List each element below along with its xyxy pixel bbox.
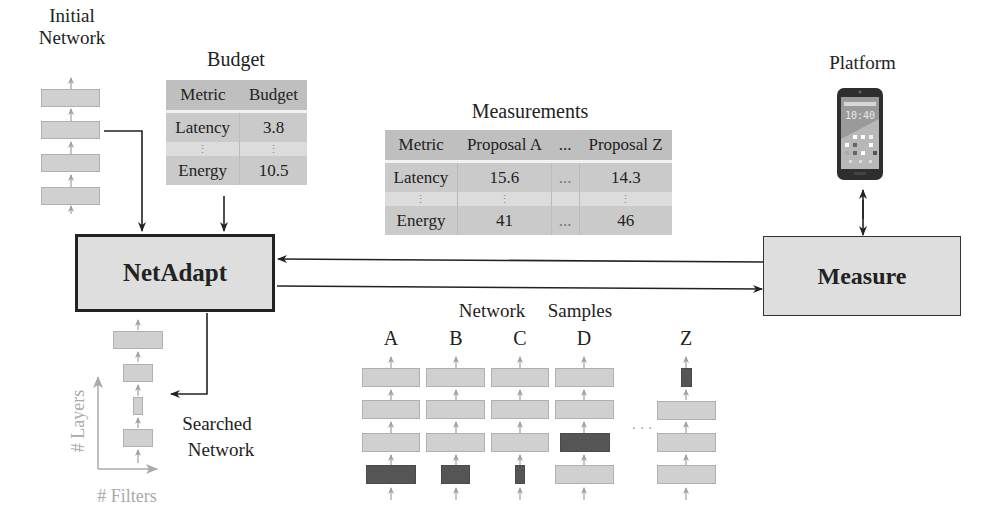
- network-samples-title-word1: Network: [452, 300, 532, 322]
- measurements-header: Metric: [385, 130, 457, 162]
- measurements-cell: ⋮: [579, 192, 672, 206]
- budget-cell: 10.5: [240, 156, 307, 185]
- pruned-layer: [560, 433, 610, 452]
- searched-layer: [113, 331, 163, 349]
- network-samples-title-word2: Samples: [540, 300, 620, 322]
- sample-layer: [555, 465, 614, 484]
- measurements-cell: Latency: [385, 162, 457, 193]
- budget-cell: 3.8: [240, 112, 307, 143]
- budget-header-metric: Metric: [166, 80, 240, 112]
- initial-layer: [41, 187, 100, 205]
- measurements-cell: 46: [579, 206, 672, 235]
- measurements-cell: ...: [551, 162, 579, 193]
- initial-layer: [41, 89, 100, 107]
- searched-layer: [133, 397, 143, 415]
- x-axis-label-filters: # Filters: [82, 485, 172, 507]
- sample-layer: [491, 433, 549, 452]
- measurements-cell: Energy: [385, 206, 457, 235]
- searched-layer: [123, 429, 153, 447]
- sample-layer: [362, 433, 420, 452]
- initial-layer: [41, 154, 100, 172]
- sample-layer: [362, 368, 420, 387]
- sample-label-a: A: [376, 327, 406, 349]
- initial-network-label-line1: Initial: [30, 5, 114, 27]
- sample-layer: [426, 368, 485, 387]
- budget-header-budget: Budget: [240, 80, 307, 112]
- netadapt-label: NetAdapt: [123, 259, 227, 287]
- measurements-cell: ⋮: [385, 192, 457, 206]
- initial-layer: [41, 121, 100, 139]
- measurements-cell: 14.3: [579, 162, 672, 193]
- sample-label-z: Z: [671, 327, 701, 349]
- sample-layer: [657, 465, 716, 484]
- sample-layer: [657, 433, 716, 452]
- sample-label-b: B: [441, 327, 471, 349]
- searched-network-label-line1: Searched: [172, 413, 262, 435]
- measurements-cell: ⋮: [457, 192, 551, 206]
- initial-network-label-line2: Network: [30, 27, 114, 49]
- sample-layer: [491, 400, 549, 419]
- searched-network-label-line2: Network: [176, 439, 266, 461]
- platform-title: Platform: [815, 52, 910, 74]
- samples-ellipsis: · · ·: [622, 418, 662, 440]
- sample-layer: [491, 368, 549, 387]
- sample-layer: [555, 368, 614, 387]
- pruned-layer: [441, 465, 470, 484]
- budget-cell: Energy: [166, 156, 240, 185]
- measurements-cell: [551, 192, 579, 206]
- sample-label-d: D: [569, 327, 599, 349]
- sample-layer: [555, 400, 614, 419]
- sample-layer: [426, 433, 485, 452]
- measurements-header: Proposal Z: [579, 130, 672, 162]
- measurements-header: ...: [551, 130, 579, 162]
- smartphone-icon: 10:40: [836, 87, 884, 181]
- pruned-layer: [681, 368, 692, 387]
- budget-title: Budget: [166, 48, 306, 70]
- svg-text:10:40: 10:40: [845, 110, 875, 121]
- searched-layer: [123, 364, 153, 382]
- measurements-cell: ...: [551, 206, 579, 235]
- sample-label-c: C: [505, 327, 535, 349]
- measurements-table: Metric Proposal A ... Proposal Z Latency…: [385, 130, 672, 235]
- y-axis-label-layers: # Layers: [67, 381, 89, 461]
- sample-layer: [362, 400, 420, 419]
- pruned-layer: [366, 465, 416, 484]
- sample-layer: [426, 400, 485, 419]
- budget-cell: ⋮: [240, 142, 307, 156]
- measurements-cell: 41: [457, 206, 551, 235]
- measurements-header: Proposal A: [457, 130, 551, 162]
- measure-box: Measure: [763, 236, 961, 316]
- measurements-cell: 15.6: [457, 162, 551, 193]
- netadapt-box: NetAdapt: [75, 234, 275, 312]
- budget-table: Metric Budget Latency 3.8 ⋮ ⋮ Energy 10.…: [166, 80, 307, 185]
- budget-cell: Latency: [166, 112, 240, 143]
- budget-cell: ⋮: [166, 142, 240, 156]
- measure-label: Measure: [818, 263, 907, 290]
- measurements-title: Measurements: [385, 100, 675, 122]
- sample-layer: [657, 401, 716, 420]
- pruned-layer: [515, 465, 525, 484]
